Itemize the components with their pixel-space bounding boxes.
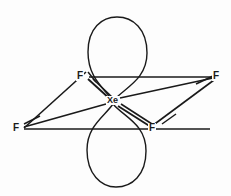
atom-label-fluorine-top-right: F — [212, 71, 220, 81]
bond-xe-to-fluorine-bottom-right-b — [121, 104, 152, 124]
bond-xe-to-fluorine-bottom-left — [24, 104, 106, 127]
tick-bottom-right-fluorine — [162, 114, 176, 124]
lone-pair-top-icon — [88, 17, 147, 101]
atom-label-fluorine-bottom-right: F — [148, 123, 156, 133]
lone-pair-bottom-icon — [87, 104, 146, 187]
atom-label-fluorine-bottom-left: F — [12, 123, 20, 133]
edge-bottom-right-to-top-right — [152, 80, 214, 126]
xef4-diagram: Xe F F F F — [0, 0, 231, 196]
atom-label-xenon: Xe — [106, 96, 119, 105]
bond-xe-to-fluorine-top-right — [120, 78, 213, 98]
atom-label-fluorine-top-left: F — [76, 71, 84, 81]
